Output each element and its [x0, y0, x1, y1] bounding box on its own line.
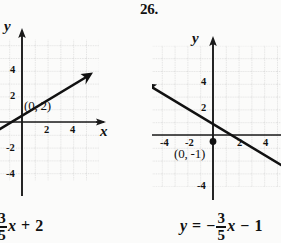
graph-right: y -4 -2 2 4 4 2 -4 (0, -1)	[152, 32, 281, 202]
graph-left-svg	[0, 22, 110, 198]
x-tick-label-2-left: 2	[44, 124, 49, 135]
y-tick-label-2-right: 2	[201, 102, 206, 113]
point-label-right: (0, -1)	[174, 146, 205, 162]
equation-sign-right: −	[206, 217, 215, 235]
graph-right-svg	[152, 32, 281, 202]
fraction-numerator-right: 3	[217, 211, 227, 226]
x-tick-label-2-right: 2	[237, 137, 242, 148]
equation-right: y = − 3 5 x − 1	[180, 210, 262, 243]
y-tick-label-4-left: 4	[10, 64, 15, 75]
equation-variable-right: x	[227, 217, 235, 235]
fraction-denominator-left: 5	[0, 228, 7, 243]
y-tick-label-4-right: 4	[201, 76, 206, 87]
x-axis-label-left: x	[100, 123, 108, 140]
x-tick-label-neg4-right: -4	[160, 137, 169, 148]
point-label-left: (0, 2)	[24, 98, 51, 114]
y-intercept-dot-right	[210, 138, 217, 145]
x-tick-label-4-left: 4	[70, 124, 75, 135]
problem-number-26: 26.	[140, 1, 158, 18]
textbook-page: 26. y x	[0, 0, 281, 243]
equation-operator-right: −	[240, 217, 249, 235]
equation-constant-right: 1	[254, 217, 262, 235]
y-tick-label-neg4-left: -4	[6, 168, 15, 179]
y-tick-label-neg2-left: -2	[6, 142, 15, 153]
equation-operator-left: +	[21, 217, 30, 235]
equation-equals-right: =	[192, 217, 201, 235]
equation-left: 3 5 x + 2	[0, 210, 43, 243]
graph-left: y x 2 4 4 2 -2 -4 (0, 2)	[0, 22, 110, 198]
equation-constant-left: 2	[35, 217, 43, 235]
y-axis-label-left: y	[4, 22, 11, 35]
fraction-denominator-right: 5	[217, 228, 227, 243]
equation-lhs-right: y	[180, 217, 187, 235]
x-tick-label-4-right: 4	[263, 137, 268, 148]
grid-area-right	[152, 46, 281, 187]
y-axis-label-right: y	[192, 32, 199, 47]
fraction-right: 3 5	[216, 211, 226, 243]
y-tick-label-neg4-right: -4	[197, 180, 206, 191]
fraction-numerator-left: 3	[0, 211, 7, 226]
equation-variable-left: x	[8, 217, 16, 235]
y-tick-label-2-left: 2	[10, 90, 15, 101]
fraction-left: 3 5	[0, 211, 7, 243]
